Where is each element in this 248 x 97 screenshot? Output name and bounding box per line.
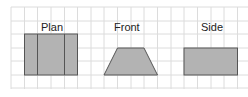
plan-label: Plan	[41, 21, 63, 33]
plan-view	[25, 34, 78, 75]
front-view	[104, 48, 158, 75]
front-label: Front	[114, 21, 140, 33]
side-label: Side	[201, 21, 223, 33]
side-view	[184, 48, 238, 75]
isometric-grid-diagram	[0, 0, 248, 97]
